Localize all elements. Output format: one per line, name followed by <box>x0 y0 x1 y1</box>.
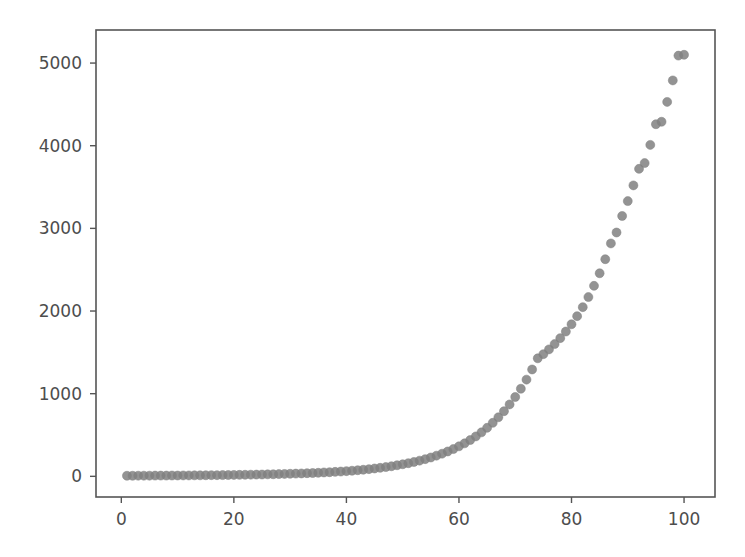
x-tick-label: 20 <box>223 509 245 529</box>
scatter-point <box>573 312 582 321</box>
scatter-point <box>595 269 604 278</box>
x-tick-label: 60 <box>448 509 470 529</box>
scatter-point <box>629 181 638 190</box>
scatter-point <box>618 211 627 220</box>
y-tick-label: 4000 <box>39 136 82 156</box>
scatter-point <box>567 320 576 329</box>
scatter-point <box>578 303 587 312</box>
y-tick-label: 1000 <box>39 384 82 404</box>
scatter-point <box>668 76 677 85</box>
scatter-point <box>505 400 514 409</box>
x-tick-label: 80 <box>561 509 583 529</box>
y-tick-label: 0 <box>71 466 82 486</box>
scatter-point <box>522 375 531 384</box>
scatter-point <box>528 365 537 374</box>
scatter-point <box>511 392 520 401</box>
scatter-point <box>640 159 649 168</box>
x-tick-label: 0 <box>116 509 127 529</box>
scatter-point <box>646 140 655 149</box>
scatter-point <box>623 197 632 206</box>
scatter-point <box>663 97 672 106</box>
scatter-point <box>561 327 570 336</box>
scatter-point <box>516 384 525 393</box>
x-tick-label: 40 <box>336 509 358 529</box>
scatter-point <box>680 50 689 59</box>
y-tick-label: 5000 <box>39 53 82 73</box>
scatter-point <box>657 117 666 126</box>
scatter-point <box>584 293 593 302</box>
plot-canvas: 020406080100 010002000300040005000 <box>0 0 745 557</box>
y-tick-label: 3000 <box>39 218 82 238</box>
scatter-point <box>606 239 615 248</box>
scatter-point <box>590 281 599 290</box>
y-tick-label: 2000 <box>39 301 82 321</box>
scatter-point <box>612 228 621 237</box>
figure-background <box>0 0 745 557</box>
x-tick-label: 100 <box>668 509 700 529</box>
scatter-plot-figure: 020406080100 010002000300040005000 <box>0 0 745 557</box>
scatter-point <box>601 255 610 264</box>
